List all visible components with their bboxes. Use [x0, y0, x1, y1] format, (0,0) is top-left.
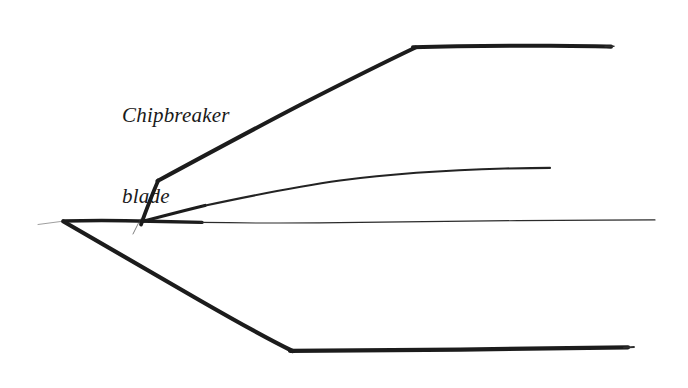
chipbreaker-top-flat-stroke [413, 46, 611, 47]
bevel-lower-tail-stroke [624, 347, 634, 348]
technical-sketch-figure: Chipbreaker blade [0, 0, 688, 388]
chipbreaker-blade-label-line2: blade [122, 183, 230, 210]
figure-background [0, 0, 688, 388]
chipbreaker-blade-label-line1: Chipbreaker [122, 102, 230, 129]
chipbreaker-blade-label: Chipbreaker blade [122, 48, 230, 264]
hand-drawn-blade-diagram [0, 0, 688, 388]
